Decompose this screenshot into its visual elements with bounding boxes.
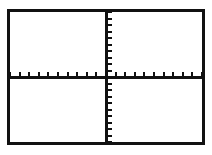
x-tick	[124, 72, 126, 76]
y-tick	[108, 89, 112, 91]
y-tick	[108, 18, 112, 20]
y-tick	[108, 70, 112, 72]
x-tick	[76, 72, 78, 76]
y-tick	[108, 96, 112, 98]
x-tick	[153, 72, 155, 76]
y-tick	[108, 57, 112, 59]
y-tick	[108, 63, 112, 65]
x-tick	[143, 72, 145, 76]
y-tick	[108, 141, 112, 142]
graph-viewport-frame	[7, 9, 205, 145]
x-tick	[10, 72, 11, 76]
graph-plot-area	[10, 12, 202, 142]
x-tick	[28, 72, 30, 76]
y-tick	[108, 50, 112, 52]
y-tick	[108, 83, 112, 85]
y-tick	[108, 12, 112, 13]
x-tick	[19, 72, 21, 76]
x-tick	[182, 72, 184, 76]
x-tick	[67, 72, 69, 76]
y-tick	[108, 31, 112, 33]
y-tick	[108, 109, 112, 111]
axes-group	[10, 12, 202, 142]
y-tick	[108, 44, 112, 46]
x-tick	[115, 72, 117, 76]
x-tick	[201, 72, 202, 76]
calculator-screen	[0, 0, 212, 155]
x-tick	[134, 72, 136, 76]
y-tick	[108, 37, 112, 39]
x-tick	[47, 72, 49, 76]
y-tick	[108, 128, 112, 130]
y-tick	[108, 115, 112, 117]
x-tick	[172, 72, 174, 76]
x-tick	[163, 72, 165, 76]
x-tick	[57, 72, 59, 76]
y-axis-line	[105, 12, 108, 142]
x-tick	[95, 72, 97, 76]
y-tick	[108, 102, 112, 104]
y-tick	[108, 122, 112, 124]
x-tick	[86, 72, 88, 76]
x-tick	[191, 72, 193, 76]
y-tick	[108, 24, 112, 26]
x-tick	[38, 72, 40, 76]
y-tick	[108, 135, 112, 137]
